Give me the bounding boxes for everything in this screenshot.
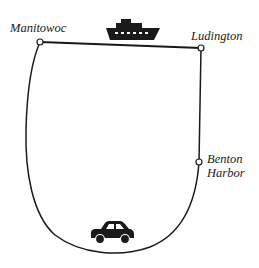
node-ludington (198, 45, 204, 51)
label-benton-harbor: Benton Harbor (207, 152, 245, 180)
node-benton-harbor (196, 159, 202, 165)
ludington-benton-line (199, 48, 201, 162)
route-diagram: Manitowoc Ludington Benton Harbor (0, 0, 259, 268)
label-benton-line2: Harbor (207, 166, 245, 180)
node-manitowoc (37, 39, 43, 45)
car-icon (91, 221, 134, 244)
label-manitowoc: Manitowoc (10, 21, 66, 35)
label-ludington: Ludington (191, 29, 242, 43)
ferry-route-line (40, 42, 201, 48)
label-benton-line1: Benton (207, 152, 245, 166)
ship-icon (106, 19, 160, 40)
